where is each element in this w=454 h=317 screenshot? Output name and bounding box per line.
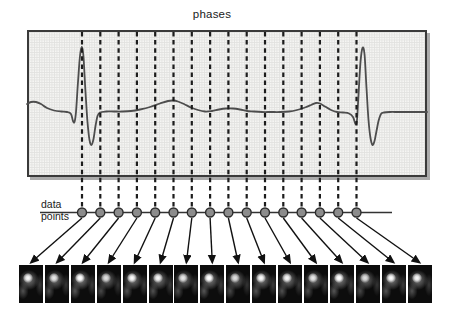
- data-point-marker: [334, 208, 343, 217]
- mapping-arrow: [320, 218, 368, 263]
- cine-frame-image: [356, 265, 380, 303]
- data-point-marker: [187, 208, 196, 217]
- cine-frame-image: [252, 265, 276, 303]
- cine-frame-image: [97, 265, 121, 303]
- data-point-marker: [224, 208, 233, 217]
- mapping-arrow: [186, 218, 191, 263]
- mapping-arrow: [265, 218, 290, 263]
- cine-frame-image: [330, 265, 354, 303]
- cine-frame-image: [408, 265, 432, 303]
- data-point-marker: [132, 208, 141, 217]
- data-point-marker: [279, 208, 288, 217]
- cine-frame-image: [19, 265, 43, 303]
- data-point-marker: [297, 208, 306, 217]
- cine-frame-image: [200, 265, 224, 303]
- mapping-arrow: [302, 218, 342, 263]
- ecg-waveform: [27, 47, 427, 145]
- mapping-arrow: [31, 218, 82, 263]
- cine-frame-image: [278, 265, 302, 303]
- mapping-arrow: [283, 218, 316, 263]
- data-point-marker: [352, 208, 361, 217]
- data-point-marker: [261, 208, 270, 217]
- data-point-marker: [114, 208, 123, 217]
- data-point-marker: [315, 208, 324, 217]
- cine-frame-image: [71, 265, 95, 303]
- data-point-marker: [242, 208, 251, 217]
- cine-frame-image: [226, 265, 250, 303]
- data-point-marker: [206, 208, 215, 217]
- cine-frame-image: [149, 265, 173, 303]
- cine-frame-image: [304, 265, 328, 303]
- mapping-arrow: [161, 218, 174, 263]
- data-point-marker: [96, 208, 105, 217]
- data-point-marker: [78, 208, 87, 217]
- cine-frame-image: [382, 265, 406, 303]
- data-point-marker: [151, 208, 160, 217]
- cine-frame-image: [45, 265, 69, 303]
- mapping-arrow: [228, 218, 238, 263]
- mapping-arrow: [210, 218, 212, 263]
- ecg-phase-mapping-figure: phases data points: [0, 0, 454, 317]
- data-point-marker: [169, 208, 178, 217]
- cine-frame-image: [174, 265, 198, 303]
- mapping-arrow: [57, 218, 100, 263]
- cine-frame-image: [123, 265, 147, 303]
- mapping-arrow: [135, 218, 156, 263]
- mapping-arrow: [247, 218, 264, 263]
